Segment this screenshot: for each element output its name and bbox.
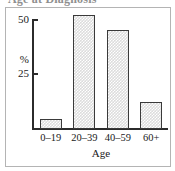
bars-layer <box>34 8 168 129</box>
figure-frame: 50 25 % 0–1920–3940–5960+ Age <box>5 7 171 167</box>
bar-slot <box>34 8 68 129</box>
bar-0-19[interactable] <box>40 119 62 129</box>
plot-area: 50 25 % 0–1920–3940–5960+ Age <box>6 8 172 168</box>
bar-20-39[interactable] <box>73 15 95 129</box>
bar-slot <box>135 8 169 129</box>
bar-slot <box>101 8 135 129</box>
x-axis-labels: 0–1920–3940–5960+ <box>34 132 168 146</box>
bar-60+[interactable] <box>140 102 162 129</box>
truncated-title-strip: Age at Diagnosis <box>0 0 175 7</box>
x-axis-title: Age <box>34 147 168 159</box>
bar-slot <box>68 8 102 129</box>
chart-title-truncated: Age at Diagnosis <box>8 0 97 7</box>
y-tick-label-25: 25 <box>10 68 29 79</box>
bar-40-59[interactable] <box>107 30 129 129</box>
x-tick-label: 20–39 <box>68 132 102 144</box>
x-tick-label: 0–19 <box>34 132 68 144</box>
x-tick-label: 40–59 <box>101 132 135 144</box>
y-axis-title: % <box>10 54 29 65</box>
x-tick-label: 60+ <box>135 132 169 144</box>
y-tick-label-50: 50 <box>10 14 29 25</box>
